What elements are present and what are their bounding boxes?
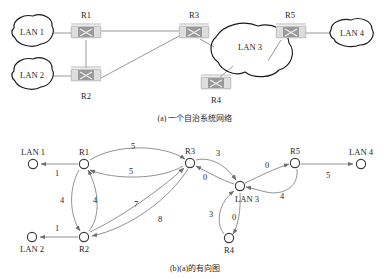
node-lan2 — [27, 232, 36, 241]
panel-a: LAN 1 LAN 2 LAN 3 LAN 4 — [12, 10, 373, 123]
router-r1: R1 — [71, 10, 101, 38]
weight-r2-r3: 7 — [134, 200, 138, 209]
edge-r1-r2 — [72, 170, 80, 231]
link-lan3-r4 — [219, 66, 233, 78]
figure-canvas: LAN 1 LAN 2 LAN 3 LAN 4 — [0, 0, 390, 279]
panel-b: LAN 1 R1 R3 R5 LAN 4 LAN 3 LAN 2 R2 R4 — [20, 142, 374, 273]
weight-r1-r2: 4 — [60, 196, 65, 205]
cloud-lan2-label: LAN 2 — [20, 70, 44, 80]
cloud-lan4-label: LAN 4 — [340, 28, 365, 38]
cloud-lan1-label: LAN 1 — [20, 27, 44, 37]
router-icon-r2 — [71, 67, 101, 81]
cloud-lan2: LAN 2 — [12, 58, 53, 90]
node-lan1 — [28, 159, 37, 168]
node-r5 — [290, 158, 299, 167]
link-r2-r3 — [101, 35, 181, 78]
cloud-lan4: LAN 4 — [330, 19, 373, 47]
node-r4 — [224, 233, 233, 242]
node-lan2-label: LAN 2 — [20, 244, 44, 254]
node-r1 — [79, 159, 88, 168]
router-r2-label: R2 — [81, 91, 91, 101]
node-lan4-label: LAN 4 — [349, 147, 374, 157]
node-r2-label: R2 — [79, 244, 89, 254]
router-r1-label: R1 — [81, 10, 91, 20]
weight-r1-lan1: 1 — [55, 169, 59, 178]
cloud-lan1: LAN 1 — [12, 15, 53, 47]
weight-r3-r2: 8 — [158, 215, 162, 224]
cloud-lan3-label: LAN 3 — [238, 42, 262, 52]
router-icon-r3 — [179, 24, 209, 38]
router-icon-r4 — [201, 75, 231, 89]
router-r4-label: R4 — [211, 95, 222, 105]
router-r5-label: R5 — [285, 10, 295, 20]
router-r2: R2 — [71, 67, 101, 101]
node-r3-label: R3 — [185, 146, 195, 156]
graph-nodes: LAN 1 R1 R3 R5 LAN 4 LAN 3 LAN 2 R2 R4 — [20, 146, 374, 255]
node-lan1-label: LAN 1 — [21, 147, 45, 157]
router-r4: R4 — [201, 75, 231, 105]
node-lan3-label: LAN 3 — [235, 194, 259, 204]
weight-lan3-r3: 0 — [203, 173, 207, 182]
edge-r3-r1 — [90, 166, 183, 177]
caption-b: (b)(a)的有向图 — [170, 263, 220, 273]
node-r3 — [185, 158, 194, 167]
weight-r4-lan3: 3 — [209, 210, 213, 219]
weight-r2-lan2: 1 — [55, 224, 59, 233]
node-r1-label: R1 — [79, 147, 89, 157]
node-r4-label: R4 — [224, 245, 235, 255]
edge-r1-r3 — [90, 148, 185, 160]
edge-lan3-r3 — [196, 166, 234, 184]
node-r2 — [79, 232, 88, 241]
router-r3: R3 — [179, 10, 209, 38]
router-icon-r1 — [71, 24, 101, 38]
node-lan4 — [356, 159, 365, 168]
network-figure: LAN 1 LAN 2 LAN 3 LAN 4 — [0, 0, 390, 279]
node-r5-label: R5 — [290, 146, 300, 156]
weight-r1-r3: 5 — [131, 142, 135, 151]
weight-r3-lan3: 3 — [216, 149, 220, 158]
edge-r5-lan3 — [246, 169, 297, 193]
weight-r5-lan3: 4 — [280, 192, 285, 201]
weight-r5-lan4: 5 — [326, 171, 330, 180]
caption-a: (a) 一个自治系统网络 — [158, 113, 233, 123]
node-lan3 — [235, 181, 244, 190]
weight-r3-r1: 5 — [129, 167, 133, 176]
link-lan3-r5 — [268, 40, 281, 61]
router-r3-label: R3 — [189, 10, 199, 20]
weight-lan3-r5: 0 — [265, 161, 269, 170]
router-r5: R5 — [276, 10, 306, 38]
router-icon-r5 — [276, 24, 306, 38]
weight-lan3-r4: 0 — [232, 213, 236, 222]
